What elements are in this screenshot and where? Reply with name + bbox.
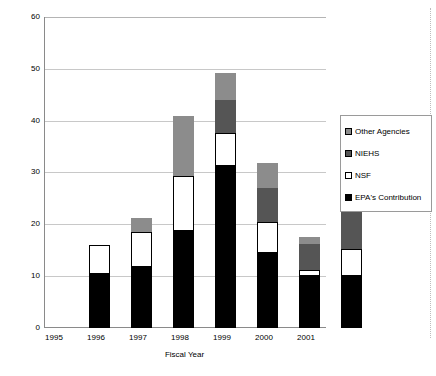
x-tick-label-2001: 2001: [286, 333, 326, 342]
x-tick-label-1999: 1999: [202, 333, 242, 342]
bar-segment-epa-contribution: [341, 276, 362, 328]
bar-group-2000: [299, 237, 320, 328]
gridline-50: [45, 69, 326, 70]
legend-item-niehs[interactable]: NIEHS: [345, 149, 379, 158]
bar-group-1996: [131, 218, 152, 328]
bar-segment-other-agencies: [257, 163, 278, 188]
bar-group-1995: [89, 245, 110, 328]
nsf-swatch: [345, 172, 352, 179]
legend-label-niehs: NIEHS: [355, 149, 379, 158]
y-tick-label-40: 40: [14, 117, 40, 125]
bar-segment-nsf: [341, 249, 362, 276]
bar-segment-other-agencies: [215, 73, 236, 99]
bar-group-1999: [257, 163, 278, 328]
bar-segment-other-agencies: [299, 237, 320, 244]
bar-segment-epa-contribution: [215, 166, 236, 328]
legend-label-epa-contribution: EPA's Contribution: [355, 193, 421, 202]
other-agencies-swatch: [345, 128, 352, 135]
plot-area: [44, 17, 325, 328]
bar-segment-niehs: [299, 244, 320, 270]
bar-segment-epa-contribution: [131, 267, 152, 328]
bar-segment-nsf: [215, 133, 236, 166]
legend-item-epa-contribution[interactable]: EPA's Contribution: [345, 193, 421, 202]
y-tick-label-50: 50: [14, 65, 40, 73]
stacked-bar-chart: $ Millions 60 50 40 30 20 10 0 1995 1996…: [0, 0, 436, 376]
y-tick-label-20: 20: [14, 220, 40, 228]
x-tick-label-1995: 1995: [34, 333, 74, 342]
bar-segment-epa-contribution: [257, 253, 278, 328]
epa-contribution-swatch: [345, 194, 352, 201]
bar-segment-nsf: [257, 222, 278, 253]
chart-legend: Other Agencies NIEHS NSF EPA's Contribut…: [340, 115, 432, 212]
gridline-60: [45, 17, 326, 18]
niehs-swatch: [345, 150, 352, 157]
bar-segment-niehs: [215, 100, 236, 134]
x-tick-label-1996: 1996: [76, 333, 116, 342]
bar-segment-nsf: [131, 232, 152, 267]
bar-segment-other-agencies: [131, 218, 152, 232]
bar-group-1997: [173, 116, 194, 328]
legend-label-other-agencies: Other Agencies: [355, 127, 410, 136]
y-tick-label-30: 30: [14, 168, 40, 176]
bar-segment-epa-contribution: [173, 231, 194, 328]
y-tick-label-60: 60: [14, 13, 40, 21]
legend-item-other-agencies[interactable]: Other Agencies: [345, 127, 410, 136]
legend-label-nsf: NSF: [355, 171, 371, 180]
bar-group-1998: [215, 73, 236, 328]
bar-group-2001: [341, 201, 362, 328]
x-tick-label-2000: 2000: [244, 333, 284, 342]
y-tick-label-10: 10: [14, 272, 40, 280]
bar-segment-nsf: [89, 245, 110, 274]
bar-segment-other-agencies: [173, 116, 194, 176]
bar-segment-nsf: [173, 176, 194, 231]
bar-segment-epa-contribution: [299, 276, 320, 328]
x-tick-label-1998: 1998: [160, 333, 200, 342]
bar-segment-nsf: [299, 270, 320, 276]
x-axis-title: Fiscal Year: [44, 350, 325, 359]
x-tick-label-1997: 1997: [118, 333, 158, 342]
legend-item-nsf[interactable]: NSF: [345, 171, 371, 180]
bar-segment-epa-contribution: [89, 274, 110, 328]
bar-segment-niehs: [257, 188, 278, 222]
y-tick-label-0: 0: [14, 324, 40, 332]
